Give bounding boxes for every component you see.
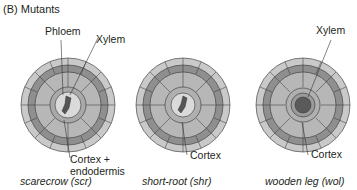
label-xylem-wol: Xylem	[316, 24, 345, 36]
label-phloem: Phloem	[45, 25, 81, 37]
diagram-scr	[21, 58, 115, 152]
caption-scr: scarecrow (scr)	[20, 175, 92, 187]
caption-wol: wooden leg (wol)	[265, 175, 344, 187]
label-cortex-endodermis-1: Cortex +	[70, 153, 110, 165]
caption-shr: short-root (shr)	[142, 175, 211, 187]
diagram-wol	[256, 58, 350, 152]
label-cortex-shr: Cortex	[190, 149, 221, 161]
label-xylem-scr: Xylem	[96, 33, 125, 45]
label-cortex-wol: Cortex	[311, 148, 342, 160]
diagram-shr	[136, 58, 230, 152]
